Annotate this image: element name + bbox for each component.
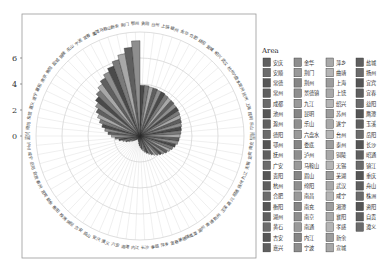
legend-item: 镇江	[356, 161, 376, 170]
legend-label: 武汉	[336, 182, 347, 190]
legend-item: 眉山	[294, 171, 314, 180]
y-tick-label: 2	[12, 106, 17, 115]
legend-label: 黄石	[273, 223, 283, 231]
legend-swatch	[263, 110, 271, 119]
legend-swatch	[294, 243, 302, 252]
legend-label: 苏州	[336, 110, 346, 118]
legend-item: 衡阳	[263, 202, 283, 211]
legend-label: 襄阳	[336, 213, 346, 221]
legend-swatch	[326, 110, 334, 119]
legend-item: 九江	[294, 99, 314, 108]
legend-label: 遵义	[366, 223, 376, 231]
legend-item: 景德镇	[294, 89, 319, 98]
legend-label: 自贡	[366, 213, 376, 221]
legend-item: 常州	[263, 89, 283, 98]
legend-swatch	[263, 151, 271, 160]
legend-swatch	[326, 68, 334, 77]
legend-label: 衡阳	[273, 203, 283, 211]
legend-item: 长沙	[356, 140, 376, 149]
legend-swatch	[263, 213, 271, 222]
legend-swatch	[356, 58, 364, 67]
legend-swatch	[294, 151, 302, 160]
legend-swatch	[294, 202, 302, 211]
legend-swatch	[356, 213, 364, 222]
legend-swatch	[356, 68, 364, 77]
legend-item: 昆明	[294, 110, 314, 119]
legend-label: 遂宁	[336, 120, 346, 128]
legend-item: 重庆	[356, 171, 376, 180]
legend-swatch	[294, 233, 302, 242]
legend-item: 鹰潭	[356, 110, 376, 119]
legend-swatch	[263, 182, 271, 191]
legend-swatch	[263, 120, 271, 129]
legend-swatch	[294, 130, 302, 139]
legend-swatch	[294, 99, 302, 108]
legend-item: 德阳	[263, 130, 283, 139]
legend-label: 盐城	[366, 59, 377, 67]
legend-item: 六盘水	[294, 130, 320, 139]
legend-item: 上饶	[326, 89, 346, 98]
legend-label: 眉山	[304, 172, 314, 180]
legend-label: 九江	[304, 100, 314, 108]
legend-label: 长沙	[366, 141, 376, 149]
legend-label: 马鞍山	[304, 162, 319, 170]
legend-swatch	[356, 161, 364, 170]
legend-label: 乐山	[304, 120, 314, 128]
legend-label: 宜宾	[366, 79, 376, 87]
legend-item: 襄阳	[326, 213, 346, 222]
legend-title: Area	[261, 47, 279, 55]
legend-item: 泸州	[294, 151, 314, 160]
legend-swatch	[263, 130, 271, 139]
legend-item: 嘉兴	[263, 243, 283, 252]
legend-item: 内江	[294, 233, 314, 242]
legend-swatch	[356, 99, 364, 108]
legend-swatch	[326, 233, 334, 242]
legend-swatch	[263, 89, 271, 98]
legend-item: 宣城	[326, 243, 347, 252]
legend-item: 荆门	[294, 68, 314, 77]
legend-item: 萍乡	[326, 58, 346, 67]
legend-label: 岳阳	[366, 131, 376, 139]
legend-item: 池州	[263, 110, 283, 119]
legend-swatch	[263, 202, 271, 211]
legend-swatch	[326, 79, 334, 88]
legend-item: 孝感	[326, 223, 346, 232]
legend-swatch	[326, 89, 334, 98]
legend-swatch	[326, 140, 334, 149]
legend-item: 自贡	[356, 213, 376, 222]
legend-swatch	[326, 243, 334, 252]
legend-label: 成都	[273, 100, 283, 108]
legend-swatch	[326, 130, 334, 139]
legend-item: 芜湖	[326, 171, 346, 180]
legend-label: 德阳	[273, 131, 283, 139]
legend-item: 宜宾	[356, 79, 376, 88]
legend-swatch	[263, 233, 271, 242]
legend-swatch	[263, 58, 271, 67]
y-tick-label: 6	[12, 54, 17, 63]
category-label: 嘉兴	[24, 132, 31, 140]
legend-swatch	[356, 223, 364, 232]
category-label: 南昌	[249, 132, 256, 140]
legend-label: 宁波	[304, 244, 315, 252]
legend-swatch	[356, 79, 364, 88]
legend-item: 常德	[263, 79, 283, 88]
legend-item: 玉溪	[356, 120, 376, 129]
legend-item: 杭州	[263, 182, 283, 191]
legend-label: 南京	[304, 213, 314, 221]
legend-item: 绍兴	[326, 99, 346, 108]
legend-swatch	[356, 151, 364, 160]
legend-swatch	[326, 192, 334, 201]
legend-label: 杭州	[273, 182, 283, 190]
legend-label: 南充	[304, 203, 314, 211]
legend-swatch	[263, 243, 271, 252]
legend-item: 成都	[263, 99, 283, 108]
legend-swatch	[263, 161, 271, 170]
legend-label: 绍兴	[336, 100, 346, 108]
legend-swatch	[356, 192, 364, 201]
y-tick-label: 4	[12, 80, 17, 89]
legend-item: 曲靖	[326, 68, 346, 77]
legend-item: 安庆	[263, 58, 283, 67]
legend-item: 铜陵	[326, 151, 347, 160]
legend-label: 吉安	[273, 234, 283, 242]
legend-label: 绵阳	[304, 182, 314, 190]
